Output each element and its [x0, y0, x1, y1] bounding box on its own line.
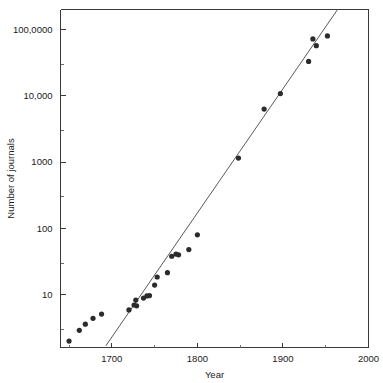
x-tick-label: 1800	[187, 353, 208, 364]
y-tick-label: 10,000	[23, 90, 52, 101]
data-point	[186, 247, 191, 252]
data-point	[325, 33, 330, 38]
data-point	[195, 232, 200, 237]
data-point	[66, 338, 71, 343]
data-point	[310, 36, 315, 41]
data-point	[152, 282, 157, 287]
plot-background	[0, 0, 383, 383]
data-point	[262, 106, 267, 111]
x-tick-label: 1700	[101, 353, 122, 364]
data-point	[314, 43, 319, 48]
data-point	[147, 293, 152, 298]
x-tick-label: 2000	[358, 353, 379, 364]
chart-figure: 10100100010,000100,00001700180019002000 …	[0, 0, 383, 383]
data-point	[278, 91, 283, 96]
data-point	[134, 303, 139, 308]
data-point	[236, 155, 241, 160]
y-axis-title: Number of journals	[5, 138, 16, 219]
data-point	[83, 322, 88, 327]
y-tick-label: 100	[37, 223, 53, 234]
data-point	[90, 316, 95, 321]
x-axis-title: Year	[205, 369, 224, 380]
y-tick-label: 10	[42, 289, 53, 300]
data-point	[176, 252, 181, 257]
y-tick-label: 1000	[31, 156, 52, 167]
data-point	[155, 274, 160, 279]
data-point	[306, 59, 311, 64]
data-point	[126, 307, 131, 312]
y-tick-label: 100,0000	[13, 24, 53, 35]
chart-canvas: 10100100010,000100,00001700180019002000 …	[0, 0, 383, 383]
data-point	[133, 297, 138, 302]
data-point	[77, 328, 82, 333]
data-point	[99, 312, 104, 317]
x-tick-label: 1900	[272, 353, 293, 364]
data-point	[165, 270, 170, 275]
